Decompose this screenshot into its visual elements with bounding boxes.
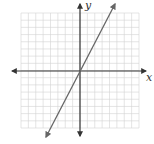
y-axis-label: y — [84, 0, 92, 12]
coordinate-graph: y x — [0, 0, 154, 144]
x-axis-label: x — [146, 71, 153, 84]
